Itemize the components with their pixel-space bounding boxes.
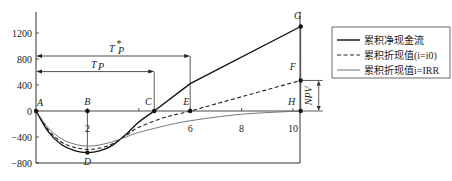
tp-sub: P [97,61,104,72]
point-label-e: E [182,96,189,107]
point-c [152,109,156,113]
point-b [85,109,89,113]
series-lines [36,27,301,153]
series-line-2 [36,80,301,149]
legend-label-2: 累积折现值(i=i0) [364,49,437,62]
npv-arrow-up [317,80,321,85]
y-tick-label: −400 [11,132,32,143]
series-line-1 [36,27,301,153]
point-label-g: G [294,10,301,21]
y-tick-label: −800 [11,158,32,169]
plot-frame [36,12,300,163]
tp-prime-span-arrow-left [36,54,42,58]
tp-label: T [91,59,98,70]
tp-span-arrow-left [36,70,42,74]
y-tick-label: 0 [27,106,32,117]
y-tick-label: 1200 [12,28,32,39]
point-d [85,150,89,154]
x-tick-label: 6 [188,123,193,134]
point-markers: ABCEHGFD [34,10,303,167]
point-label-b: B [84,96,90,107]
point-e [188,109,192,113]
legend-label-3: 累积折现值i=IRR [364,64,439,76]
tp-prime-label: T [109,43,116,54]
x-tick-label: 8 [239,123,244,134]
point-a [34,109,38,113]
tp-span-arrow-right [148,70,154,74]
point-label-c: C [145,96,152,107]
legend-label-1: 累积净现金流 [364,34,424,46]
plot-border [36,12,300,163]
point-label-d: D [83,156,92,167]
chart: −800−4000400800120026810 ABCEHGFD T*PTPN… [0,0,452,181]
point-label-h: H [287,96,296,107]
legend: 累积净现金流累积折现值(i=i0)累积折现值i=IRR [332,27,450,78]
y-tick-label: 400 [17,80,32,91]
y-tick-label: 800 [17,54,32,65]
axis-ticks: −800−4000400800120026810 [11,28,298,169]
point-label-a: A [36,97,44,108]
npv-arrow-down [317,106,321,111]
point-label-f: F [289,61,297,72]
tp-prime-span-arrow-right [184,54,190,58]
x-tick-label: 10 [288,123,298,134]
tp-prime-sub: P [117,45,124,56]
annotations: T*PTPNPV [36,38,323,111]
point-g [299,24,303,28]
npv-label: NPV [303,84,314,106]
